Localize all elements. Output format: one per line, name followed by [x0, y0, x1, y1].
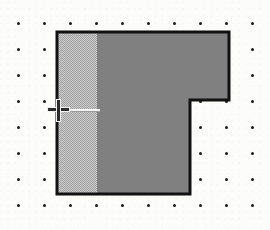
notched-rectangle-shape[interactable] [0, 0, 270, 230]
shape-left-band-group [57, 32, 97, 194]
shape-layer [0, 0, 270, 230]
shape-left-band [57, 32, 97, 194]
drawing-canvas[interactable]: Notched rectangle shape with dithered le… [0, 0, 270, 230]
